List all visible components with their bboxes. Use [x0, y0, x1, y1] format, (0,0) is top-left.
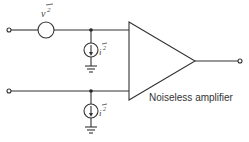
current-noise-label-bottom: i 2: [99, 104, 107, 118]
amplifier-label: Noiseless amplifier: [149, 92, 234, 103]
voltage-noise-source: [38, 22, 54, 38]
ground-icon: [85, 127, 97, 133]
output-terminal: [238, 59, 242, 63]
svg-text:2: 2: [103, 45, 106, 51]
svg-text:2: 2: [47, 6, 51, 14]
noise-model-diagram: v 2 i 2 i 2 Noiseless ampli: [0, 0, 249, 142]
svg-text:2: 2: [103, 106, 106, 112]
arrow-down-icon: [89, 52, 93, 56]
input-terminal-top: [7, 28, 11, 32]
voltage-noise-label: v 2: [41, 4, 53, 19]
ground-icon: [85, 66, 97, 72]
svg-text:i: i: [99, 47, 102, 57]
amplifier-triangle: [129, 22, 195, 100]
arrow-down-icon: [89, 113, 93, 117]
input-terminal-bottom: [7, 89, 11, 93]
svg-text:i: i: [99, 108, 102, 118]
svg-text:v: v: [41, 8, 46, 19]
current-noise-label-top: i 2: [99, 43, 107, 57]
